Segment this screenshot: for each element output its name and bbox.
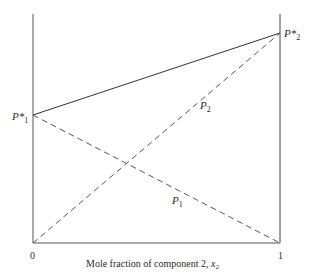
x-tick-0: 0 (30, 250, 35, 261)
p2-line-label: P2 (199, 99, 211, 114)
p2-star-label: P*2 (283, 27, 300, 42)
p1-partial-pressure-line (33, 115, 280, 243)
x-tick-1: 1 (278, 250, 283, 261)
p1-line-label: P1 (171, 194, 183, 209)
p1-star-label: P*1 (11, 110, 28, 125)
total-pressure-line (33, 33, 280, 115)
p2-partial-pressure-line (33, 33, 280, 243)
x-axis-label: Mole fraction of component 2, x2 (86, 258, 219, 271)
vapor-pressure-chart: P*1 P*2 P2 P1 0 1 Mole fraction of compo… (0, 0, 312, 273)
